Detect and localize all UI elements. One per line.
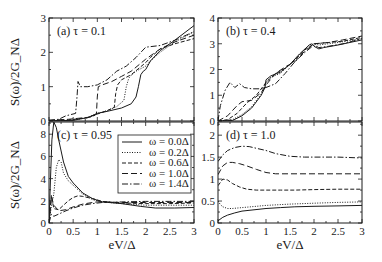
ylabel-top: S(ω)/2G_NΔ	[7, 38, 22, 106]
series-group	[49, 26, 194, 121]
x-tick-label: 1	[263, 225, 269, 237]
x-tick-label: 0.5	[235, 225, 249, 237]
y-tick-label: 2	[210, 64, 216, 76]
series-line	[49, 26, 194, 121]
x-tick-label: 1.5	[283, 225, 297, 237]
y-tick-label: 2	[210, 129, 216, 141]
figure: 0123(a) τ = 0.101234(b) τ = 0.40246800.5…	[0, 0, 382, 262]
x-tick-label: 1	[95, 225, 101, 237]
x-tick-label: 3	[359, 225, 365, 237]
series-line	[218, 37, 362, 121]
x-tick-label: 2.5	[331, 225, 345, 237]
y-tick-label: 4	[210, 12, 216, 24]
y-tick-label: 0	[41, 115, 47, 127]
panel-a: 0123(a) τ = 0.1	[41, 12, 195, 127]
x-tick-label: 0	[46, 225, 52, 237]
y-tick-label: 8	[41, 128, 47, 140]
y-tick-label: 1	[210, 89, 216, 101]
legend-label: ω = 1.4Δ	[149, 177, 189, 189]
series-line	[218, 40, 362, 121]
panel-title: (d) τ = 1.0	[226, 128, 276, 142]
y-tick-label: 1	[210, 173, 216, 185]
ylabel-bottom: S(ω)/2G_NΔ	[7, 141, 22, 209]
x-tick-label: 0.5	[66, 225, 80, 237]
y-tick-label: 3	[210, 38, 216, 50]
y-tick-label: 6	[41, 150, 47, 162]
series-line	[218, 205, 362, 220]
panel-d: 00.511.5200.511.522.53(d) τ = 1.0	[201, 122, 365, 237]
y-tick-label: 1	[41, 81, 47, 93]
series-line	[218, 146, 362, 161]
xlabel-left: eV/Δ	[108, 237, 135, 252]
y-tick-label: 2	[41, 46, 47, 58]
panel-title: (b) τ = 0.4	[226, 24, 276, 38]
series-group	[218, 146, 362, 221]
x-tick-label: 2	[143, 225, 149, 237]
series-group	[218, 36, 362, 121]
y-tick-label: 2	[41, 195, 47, 207]
y-tick-label: 1.5	[201, 151, 215, 163]
x-tick-label: 1.5	[115, 225, 129, 237]
xlabel-right: eV/Δ	[276, 237, 303, 252]
series-line	[218, 162, 362, 174]
series-line	[218, 36, 362, 121]
y-tick-label: 3	[41, 12, 47, 24]
series-line	[49, 39, 194, 121]
y-tick-label: 0	[210, 115, 216, 127]
panel-title: (a) τ = 0.1	[57, 24, 106, 38]
series-line	[218, 39, 362, 121]
x-tick-label: 2	[311, 225, 317, 237]
panel-title: (c) τ = 0.95	[57, 128, 112, 142]
panel-b: 01234(b) τ = 0.4	[210, 12, 363, 127]
y-tick-label: 0.5	[201, 195, 215, 207]
series-line	[218, 179, 362, 190]
series-line	[218, 39, 362, 121]
series-line	[49, 195, 194, 223]
chart-canvas: 0123(a) τ = 0.101234(b) τ = 0.40246800.5…	[0, 0, 382, 262]
x-tick-label: 0	[215, 225, 221, 237]
y-tick-label: 4	[41, 173, 47, 185]
legend: ω = 0.0Δω = 0.2Δω = 0.6Δω = 1.0Δω = 1.4Δ	[118, 135, 191, 193]
x-tick-label: 3	[191, 225, 197, 237]
panels: 0123(a) τ = 0.101234(b) τ = 0.40246800.5…	[41, 12, 366, 237]
x-tick-label: 2.5	[163, 225, 177, 237]
